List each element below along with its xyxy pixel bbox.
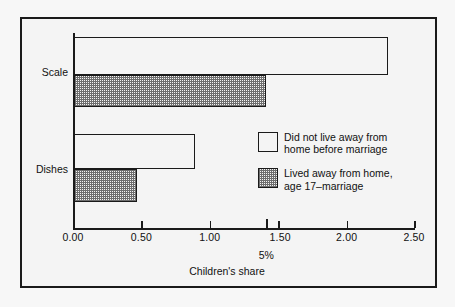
x-axis-line [73, 228, 415, 230]
bar-dishes-lived-away [74, 169, 137, 202]
x-tick-label-3: 1.50 [258, 231, 302, 243]
x-tick-0 [73, 221, 75, 228]
category-label-dishes: Dishes [12, 163, 68, 175]
legend-label-did-not-live-away: Did not live away from home before marri… [284, 131, 387, 155]
x-tick-5pct-marker [266, 219, 268, 228]
x-tick-label-0: 0.00 [51, 231, 95, 243]
bar-scale-lived-away [74, 75, 266, 107]
y-axis-line [73, 33, 75, 230]
x-axis-title: Children's share [147, 265, 307, 277]
annotation-5-percent: 5% [236, 249, 296, 261]
bar-scale-did-not-live-away [74, 37, 388, 75]
legend-item-did-not-live-away: Did not live away from home before marri… [258, 131, 430, 155]
x-tick-label-2: 1.00 [188, 231, 232, 243]
figure-canvas: Scale Dishes 0.00 0.50 1.00 1.50 2.00 2.… [0, 0, 455, 307]
legend-item-lived-away: Lived away from home, age 17–marriage [258, 167, 430, 191]
x-tick-label-4: 2.00 [325, 231, 369, 243]
legend-swatch-open-icon [258, 132, 278, 152]
x-tick-4 [347, 221, 349, 228]
x-tick-3 [278, 221, 280, 228]
x-tick-5 [414, 221, 416, 228]
x-tick-1 [141, 221, 143, 228]
chart-legend: Did not live away from home before marri… [258, 131, 430, 204]
legend-swatch-hatched-icon [258, 168, 278, 188]
category-label-scale: Scale [12, 66, 68, 78]
x-tick-label-5: 2.50 [392, 231, 436, 243]
x-tick-2 [210, 221, 212, 228]
bar-dishes-did-not-live-away [74, 134, 195, 169]
legend-label-lived-away: Lived away from home, age 17–marriage [284, 167, 393, 191]
x-tick-label-1: 0.50 [119, 231, 163, 243]
